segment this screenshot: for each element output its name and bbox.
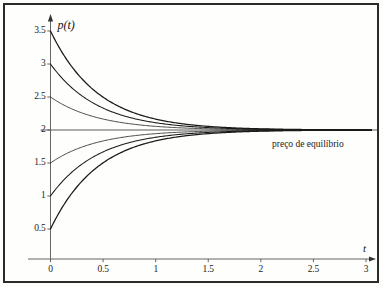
x-tick-label: 2.5 xyxy=(298,264,328,274)
x-tick-label: 2 xyxy=(246,264,276,274)
y-tick-label: 2.5 xyxy=(34,91,45,101)
y-tick-label: 1 xyxy=(41,190,46,200)
figure-container: p(t) t preço de equilíbrio 0.511.522.533… xyxy=(0,0,383,287)
y-tick-label: 1.5 xyxy=(34,157,45,167)
x-axis-title: t xyxy=(363,242,366,254)
y-tick-label: 3.5 xyxy=(34,25,45,35)
equilibrium-price-label: preço de equilíbrio xyxy=(272,139,344,149)
curve-1 xyxy=(51,64,372,130)
y-tick-label: 3 xyxy=(41,58,46,68)
y-axis-title: p(t) xyxy=(58,18,75,33)
curve-2 xyxy=(51,97,372,130)
x-tick-label: 1 xyxy=(141,264,171,274)
x-tick-label: 0.5 xyxy=(88,264,118,274)
x-tick-label: 0 xyxy=(36,264,66,274)
x-tick-label: 3 xyxy=(351,264,381,274)
y-tick-label: 2 xyxy=(41,124,46,134)
y-tick-label: 0.5 xyxy=(34,223,45,233)
curve-0 xyxy=(51,31,372,130)
x-tick-label: 1.5 xyxy=(193,264,223,274)
